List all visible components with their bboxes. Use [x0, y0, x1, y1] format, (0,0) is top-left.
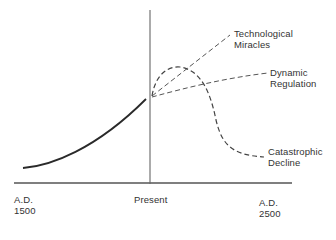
axis-label-present: Present: [134, 194, 167, 205]
catastrophic-decline-line: [152, 67, 264, 157]
historical-curve: [23, 99, 146, 168]
scenario-label-catastrophic-decline: Catastrophic Decline: [268, 146, 323, 168]
label-line: Miracles: [234, 39, 293, 50]
label-line: Present: [134, 194, 167, 205]
axis-label-start: A.D. 1500: [14, 194, 36, 216]
label-line: Technological: [234, 28, 293, 39]
label-line: 2500: [259, 208, 281, 219]
label-line: Dynamic: [270, 67, 316, 78]
axis-label-end: A.D. 2500: [259, 197, 281, 219]
label-line: A.D.: [14, 194, 36, 205]
label-line: Regulation: [270, 78, 316, 89]
label-line: Catastrophic: [268, 146, 323, 157]
dynamic-regulation-line: [152, 73, 268, 97]
label-line: 1500: [14, 205, 36, 216]
label-line: Decline: [268, 157, 323, 168]
scenario-label-dynamic-regulation: Dynamic Regulation: [270, 67, 316, 89]
scenario-label-technological-miracles: Technological Miracles: [234, 28, 293, 50]
label-line: A.D.: [259, 197, 281, 208]
